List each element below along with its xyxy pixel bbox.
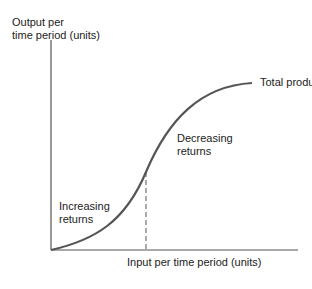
diagram-canvas [0, 0, 312, 289]
decreasing-returns-label: Decreasing returns [177, 132, 233, 158]
decreasing-line2: returns [177, 145, 233, 158]
increasing-line2: returns [59, 213, 110, 226]
total-product-label: Total product [260, 76, 312, 89]
increasing-returns-label: Increasing returns [59, 200, 110, 226]
y-axis-label-line2: time period (units) [12, 29, 100, 42]
x-axis-label: Input per time period (units) [127, 256, 262, 269]
y-axis-label: Output per time period (units) [12, 16, 100, 42]
increasing-line1: Increasing [59, 200, 110, 213]
y-axis-label-line1: Output per [12, 16, 100, 29]
decreasing-line1: Decreasing [177, 132, 233, 145]
